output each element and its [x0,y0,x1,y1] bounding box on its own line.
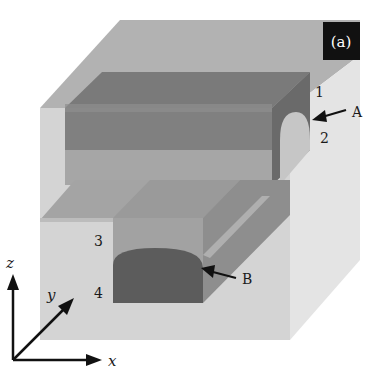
pointer-label-a: A [351,104,363,120]
axis-label-z: z [5,254,14,272]
panel-label: (a) [331,33,352,51]
upper-waveguide-lower-band [65,150,272,185]
x-axis-arrow-icon [86,354,102,366]
core-b [113,248,203,303]
axis-label-y: y [46,286,56,304]
z-axis-arrow-icon [7,274,19,290]
axis-label-x: x [108,352,117,370]
pointer-label-b: B [242,271,252,287]
waveguide-diagram: (a) 1 2 3 4 A B z y x [0,0,392,380]
region-label-4: 4 [94,285,103,301]
upper-waveguide-stripe [65,104,272,112]
region-label-3: 3 [94,233,103,249]
upper-waveguide-front [65,108,272,150]
lower-shelf-front [40,218,120,222]
region-label-2: 2 [320,130,329,146]
region-label-1: 1 [315,84,324,100]
upper-waveguide-top [65,72,310,108]
